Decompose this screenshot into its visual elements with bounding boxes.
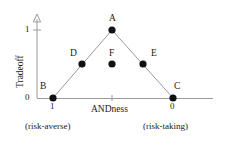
data-point-label-e: E <box>151 49 157 59</box>
tradeoff-andness-chart: Tradeoff 1 0 1 0 ANDness A B C D E F (ri… <box>0 0 228 144</box>
data-point-label-b: B <box>40 82 46 92</box>
data-point-a <box>108 26 115 33</box>
data-point-label-d: D <box>70 49 77 59</box>
annotation-risk-taking: (risk-taking) <box>143 122 188 131</box>
y-axis-title: Tradeoff <box>15 55 25 88</box>
data-point-label-a: A <box>109 14 116 24</box>
data-point-f <box>108 60 115 67</box>
annotation-risk-averse: (risk-averse) <box>25 122 70 131</box>
x-tick-label-1: 1 <box>50 102 55 111</box>
data-point-e <box>139 60 146 67</box>
x-tick-label-0: 0 <box>170 102 175 111</box>
data-point-label-f: F <box>109 49 114 59</box>
y-tick-label-0: 0 <box>25 93 30 102</box>
y-tick-label-1: 1 <box>25 25 30 34</box>
data-point-d <box>78 60 85 67</box>
x-axis-title: ANDness <box>91 105 128 115</box>
data-point-label-c: C <box>174 82 180 92</box>
